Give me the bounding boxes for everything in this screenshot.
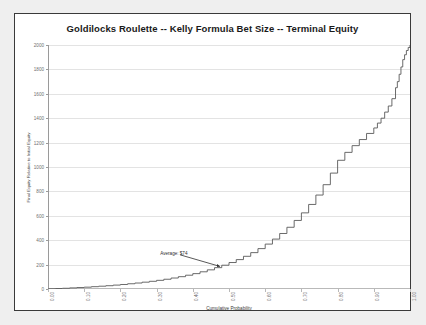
screenshot-canvas: Goldilocks Roulette -- Kelly Formula Bet… [0,0,426,325]
y-tick-label: 1800 [34,67,44,72]
x-tick-mark [229,289,230,292]
y-tick-label: 1600 [34,91,44,96]
x-tick-label: 0.20 [122,292,127,301]
annotation-arrow [48,45,410,289]
x-tick-label: 1.00 [412,292,417,301]
plot-area[interactable]: 0200400600800100012001400160018002000 0.… [48,45,410,289]
annotation-arrow-line [180,255,220,267]
y-tick-label: 0 [41,287,44,292]
y-tick-label: 800 [36,189,44,194]
y-tick-label: 1000 [34,165,44,170]
y-tick-label: 1200 [34,140,44,145]
chart-title: Goldilocks Roulette -- Kelly Formula Bet… [15,23,410,34]
x-tick-label: 0.60 [267,292,272,301]
y-tick-label: 600 [36,213,44,218]
y-tick-label: 200 [36,262,44,267]
x-tick-label: 0.00 [50,292,55,301]
x-tick-label: 0.70 [303,292,308,301]
x-tick-label: 0.90 [375,292,380,301]
x-tick-label: 0.50 [231,292,236,301]
y-tick-label: 400 [36,238,44,243]
chart-object-frame[interactable]: Goldilocks Roulette -- Kelly Formula Bet… [14,13,411,311]
annotation-label: Average: $74 [160,251,187,256]
y-tick-label: 2000 [34,43,44,48]
x-tick-label: 0.80 [339,292,344,301]
x-tick-label: 0.40 [194,292,199,301]
y-axis-title-text: Final Equity Relative to Initial Equity [27,132,32,202]
x-tick-mark [48,289,49,292]
y-tick-label: 1400 [34,116,44,121]
x-tick-mark [410,289,411,292]
x-tick-label: 0.30 [158,292,163,301]
y-axis-title: Final Equity Relative to Initial Equity [24,45,34,289]
x-tick-label: 0.10 [86,292,91,301]
x-axis-title: Cumulative Probability [48,306,410,311]
